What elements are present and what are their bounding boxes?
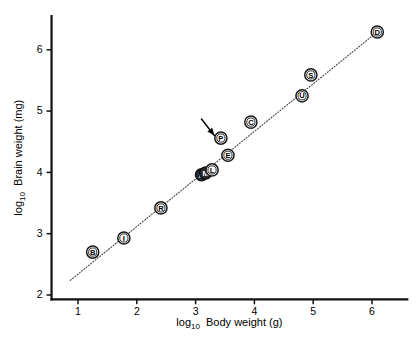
data-point-l: L [206, 164, 218, 176]
y-tick-label: 6 [37, 43, 43, 55]
marker-letter-label: U [299, 91, 305, 100]
y-axis-title-main: Brain weight (mg) [12, 100, 24, 192]
marker-letter-label: B [90, 248, 96, 257]
y-axis-title: log10 Brain weight (mg) [12, 100, 27, 216]
axis-ticks: 23456123456 [37, 43, 375, 317]
marker-letter-label: S [308, 71, 313, 80]
data-point-i: I [118, 232, 130, 244]
marker-letter-label: D [375, 28, 381, 37]
data-point-c: C [245, 116, 257, 128]
x-tick-label: 2 [134, 305, 140, 317]
y-tick-label: 4 [37, 166, 43, 178]
data-point-d: D [371, 26, 383, 38]
data-points: BIRKMLEPCUSD [87, 26, 384, 258]
marker-letter-label: R [158, 204, 164, 213]
marker-letter-label: E [225, 151, 230, 160]
x-tick-label: 3 [193, 305, 199, 317]
marker-letter-label: I [123, 234, 125, 243]
x-axis-title-log: log [176, 316, 191, 328]
x-tick-label: 6 [369, 305, 375, 317]
marker-letter-label: C [248, 118, 254, 127]
marker-letter-label: P [218, 134, 223, 143]
x-axis-title-main: Body weight (g) [200, 316, 283, 328]
y-tick-label: 5 [37, 104, 43, 116]
data-point-r: R [155, 202, 167, 214]
x-tick-label: 1 [75, 305, 81, 317]
data-point-s: S [305, 69, 317, 81]
x-tick-label: 5 [310, 305, 316, 317]
data-point-p: P [215, 132, 227, 144]
plot-annotations [201, 119, 214, 136]
x-axis-title-text: log10 Body weight (g) [176, 316, 282, 331]
data-point-u: U [296, 90, 308, 102]
marker-letter-label: L [210, 166, 215, 175]
x-axis-title: log10 Body weight (g) [176, 316, 282, 331]
data-point-b: B [87, 246, 99, 258]
y-tick-label: 3 [37, 227, 43, 239]
annotation-arrow-to-p [201, 119, 214, 136]
data-point-e: E [222, 149, 234, 161]
y-axis-title-text: log10 Brain weight (mg) [12, 100, 27, 216]
y-axis-title-log: log [12, 201, 24, 216]
y-tick-label: 2 [37, 288, 43, 300]
scatter-plot-figure: 23456123456 BIRKMLEPCUSD log10 Brain wei… [0, 0, 419, 337]
plot-canvas: 23456123456 BIRKMLEPCUSD log10 Brain wei… [0, 0, 419, 337]
